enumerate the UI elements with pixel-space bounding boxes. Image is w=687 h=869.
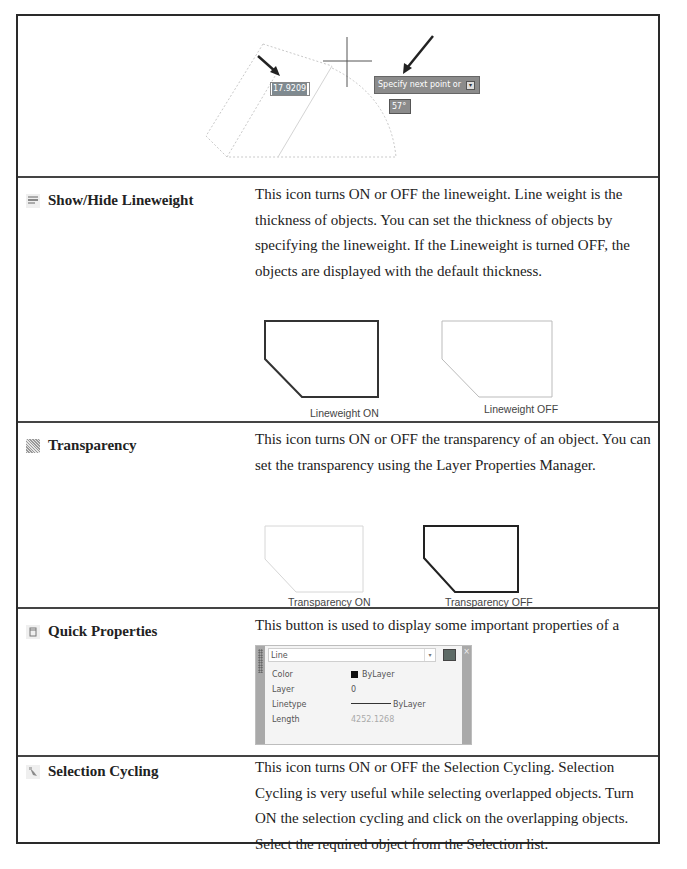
dimension-input-box[interactable]: 17.9209: [270, 82, 310, 96]
row-description: This icon turns ON or OFF the transparen…: [255, 427, 655, 478]
row-label: Show/Hide Lineweight: [26, 192, 193, 209]
quick-properties-panel: Line ▾ × Color ByLayer Layer 0 Linetype …: [255, 645, 472, 745]
dynamic-input-figure-row: 17.9209 Specify next point or ▾ 57°: [18, 16, 658, 176]
row-show-hide-lineweight: Show/Hide Lineweight This icon turns ON …: [18, 178, 658, 421]
property-label: Length: [272, 715, 300, 724]
transparency-icon: [26, 439, 40, 453]
object-type-dropdown[interactable]: Line ▾: [268, 648, 436, 662]
dimension-input-value: 17.9209: [272, 83, 307, 95]
angle-tooltip: 57°: [389, 99, 411, 114]
panel-side-bar: ×: [462, 646, 471, 744]
chevron-down-icon: ▾: [424, 649, 435, 661]
row-label: Selection Cycling: [26, 763, 158, 780]
quick-select-button[interactable]: [443, 649, 456, 661]
tooltip-text: Specify next point or: [378, 77, 461, 93]
property-value[interactable]: ByLayer: [351, 700, 426, 709]
color-swatch-icon: [351, 671, 358, 678]
row-description: This icon turns ON or OFF the lineweight…: [255, 182, 655, 284]
row-label: Quick Properties: [26, 623, 157, 640]
dynamic-input-drawing: [18, 16, 662, 176]
figure-caption: Lineweight ON: [310, 407, 379, 419]
row-title: Quick Properties: [48, 623, 157, 640]
transparency-on-figure: [264, 525, 394, 605]
lineweight-icon: [26, 194, 40, 208]
row-title: Selection Cycling: [48, 763, 158, 780]
tooltip-options-button[interactable]: ▾: [466, 81, 475, 90]
dynamic-input-tooltip: Specify next point or ▾: [374, 76, 480, 94]
row-description: This icon turns ON or OFF the Selection …: [255, 755, 655, 857]
property-value: 4252.1268: [351, 715, 394, 724]
lineweight-off-figure: [441, 320, 571, 400]
object-type-value: Line: [271, 651, 288, 660]
lineweight-on-figure: [264, 320, 394, 400]
panel-grip-handle[interactable]: [256, 646, 265, 744]
row-transparency: Transparency This icon turns ON or OFF t…: [18, 423, 658, 607]
property-label: Layer: [272, 685, 294, 694]
property-label: Linetype: [272, 700, 307, 709]
angle-value: 57°: [392, 100, 406, 113]
quick-properties-icon: [26, 625, 40, 639]
row-title: Transparency: [48, 437, 137, 454]
row-label: Transparency: [26, 437, 137, 454]
figure-caption: Lineweight OFF: [484, 403, 558, 415]
linetype-sample-icon: [351, 703, 391, 704]
close-icon[interactable]: ×: [463, 647, 470, 656]
transparency-off-figure: [423, 525, 553, 605]
row-selection-cycling: Selection Cycling This icon turns ON or …: [18, 757, 658, 844]
property-value[interactable]: ByLayer: [351, 670, 395, 679]
property-label: Color: [272, 670, 293, 679]
selection-cycling-icon: [26, 765, 40, 779]
property-value[interactable]: 0: [351, 685, 356, 694]
row-title: Show/Hide Lineweight: [48, 192, 193, 209]
